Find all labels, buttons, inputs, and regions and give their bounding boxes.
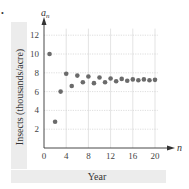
scatter-chart: 24681012048121620ann: [0, 0, 189, 189]
data-point: [153, 78, 158, 83]
y-axis-name: an: [41, 7, 50, 20]
data-point: [125, 78, 130, 83]
data-point: [75, 73, 80, 78]
data-point: [81, 80, 86, 85]
data-point: [142, 77, 147, 82]
y-tick-label: 12: [30, 30, 39, 40]
x-tick-label: 20: [151, 151, 161, 161]
data-point: [86, 74, 91, 79]
data-point: [64, 71, 69, 76]
x-tick-label: 8: [86, 151, 91, 161]
data-point: [147, 78, 152, 83]
x-tick-label: 16: [128, 151, 138, 161]
data-point: [47, 52, 52, 57]
y-tick-label: 2: [35, 124, 40, 134]
y-tick-label: 10: [30, 49, 40, 59]
data-point: [53, 119, 58, 124]
y-tick-label: 6: [35, 87, 40, 97]
x-axis-arrow-icon: [167, 146, 175, 151]
data-point: [103, 80, 108, 85]
x-tick-label: 12: [106, 151, 115, 161]
x-tick-label: 4: [64, 151, 69, 161]
y-tick-label: 4: [35, 105, 40, 115]
data-point: [92, 81, 97, 86]
data-point: [136, 78, 141, 83]
data-point: [131, 77, 136, 82]
x-axis-name: n: [177, 142, 182, 153]
data-point: [69, 84, 74, 89]
x-tick-label: 0: [42, 151, 47, 161]
data-point: [114, 79, 119, 84]
data-point: [97, 75, 102, 80]
data-point: [119, 77, 124, 82]
y-tick-label: 8: [35, 68, 40, 78]
data-point: [58, 89, 63, 94]
data-point: [108, 76, 113, 81]
